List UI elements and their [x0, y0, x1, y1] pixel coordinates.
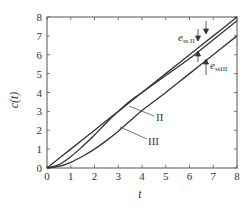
y-tick-label: 3: [37, 105, 43, 117]
y-tick-label: 2: [37, 124, 43, 136]
ess-III-marker: [204, 21, 209, 75]
x-tick-label: 2: [92, 170, 98, 182]
y-tick-label: 6: [37, 49, 43, 61]
x-tick-label: 7: [211, 170, 217, 182]
x-tick-label: 1: [68, 170, 74, 182]
ess-III-label: essIII: [210, 59, 228, 73]
y-tick-label: 0: [37, 162, 43, 174]
chart: 012345678012345678 II III ess II essIII …: [0, 0, 251, 211]
annotations: II III ess II essIII: [120, 21, 228, 147]
y-tick-label: 7: [37, 30, 43, 42]
x-tick-label: 6: [187, 170, 193, 182]
axis-ticks: 012345678012345678: [37, 11, 241, 182]
curve-label-II: II: [156, 111, 164, 123]
series-group: [47, 17, 237, 168]
y-tick-label: 5: [37, 68, 43, 80]
y-tick-label: 4: [37, 87, 43, 99]
ess-II-label: ess II: [178, 31, 195, 45]
y-tick-label: 8: [37, 11, 43, 23]
y-tick-label: 1: [37, 143, 43, 155]
x-axis-label: t: [138, 187, 142, 201]
y-axis-label: c(t): [7, 92, 21, 109]
curve-label-III: III: [148, 135, 159, 147]
x-tick-label: 0: [44, 170, 50, 182]
leader-line-II: [129, 106, 154, 116]
x-tick-label: 8: [234, 170, 240, 182]
x-tick-label: 5: [163, 170, 169, 182]
leader-line-III: [120, 127, 147, 139]
ess-II-marker: [196, 29, 201, 62]
series-line-2: [47, 36, 237, 168]
x-tick-label: 4: [139, 170, 145, 182]
x-tick-label: 3: [116, 170, 122, 182]
